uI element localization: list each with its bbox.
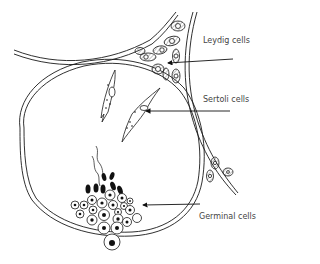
germinal-arrow xyxy=(143,204,200,205)
germinal-cells xyxy=(71,190,142,250)
germinal-cells-label: Germinal cells xyxy=(199,212,256,221)
sertoli-cells xyxy=(101,70,160,142)
spermatid-heads xyxy=(86,171,124,195)
leader-arrows xyxy=(143,59,233,205)
leydig-cells-label: Leydig cells xyxy=(203,36,250,45)
sperm-tails xyxy=(92,146,104,186)
sertoli-cells-label: Sertoli cells xyxy=(203,95,249,104)
